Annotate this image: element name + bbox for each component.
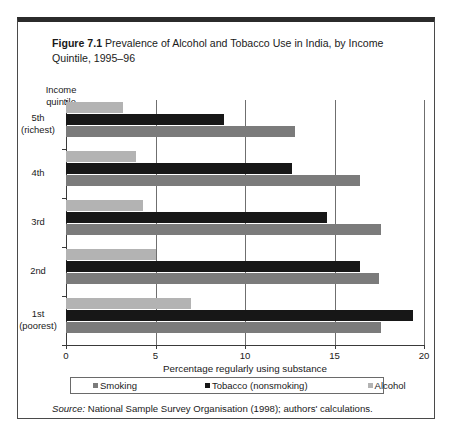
y-axis-category-line: 2nd <box>30 265 46 276</box>
bar-smoking <box>66 126 295 137</box>
y-axis-category-label: 4th <box>14 167 62 178</box>
x-axis-tick <box>424 345 425 349</box>
bar-tobacco <box>66 163 292 174</box>
figure-source: Source: National Sample Survey Organisat… <box>52 403 373 414</box>
y-axis-category-label: 5th(richest) <box>14 112 62 134</box>
y-axis-category-line: 4th <box>31 167 44 178</box>
bar-group: 2nd <box>66 247 424 296</box>
bar-group: 4th <box>66 149 424 198</box>
bar-alcohol <box>66 249 156 260</box>
bar-tobacco <box>66 114 224 125</box>
legend-item: Alcohol <box>368 380 406 391</box>
bar-smoking <box>66 273 379 284</box>
source-label: Source: <box>52 403 85 414</box>
x-axis-tick-label: 10 <box>240 350 251 361</box>
legend-label: Tobacco (nonsmoking) <box>212 380 308 391</box>
legend-label: Alcohol <box>375 380 406 391</box>
y-axis-category-line: 5th <box>31 112 44 123</box>
chart-legend: SmokingTobacco (nonsmoking)Alcohol <box>70 377 384 394</box>
bar-group: 3rd <box>66 198 424 247</box>
plot-area: 5th(richest)4th3rd2nd1st(poorest) <box>66 100 424 345</box>
bar-alcohol <box>66 102 123 113</box>
bar-alcohol <box>66 298 191 309</box>
legend-swatch-tobacco <box>205 383 210 388</box>
x-axis-tick <box>66 345 67 349</box>
y-axis-category-line: 3rd <box>31 216 45 227</box>
y-axis-title-line1: Income <box>46 84 77 95</box>
y-axis-category-line: (poorest) <box>19 320 57 331</box>
legend-item: Smoking <box>93 380 137 391</box>
y-axis-category-label: 1st(poorest) <box>14 308 62 330</box>
x-axis-tick <box>335 345 336 349</box>
bar-alcohol <box>66 151 136 162</box>
bar-alcohol <box>66 200 143 211</box>
bar-smoking <box>66 224 381 235</box>
y-axis-category-line: 1st <box>32 308 45 319</box>
x-axis-tick <box>245 345 246 349</box>
gridline-20 <box>424 100 425 345</box>
bar-tobacco <box>66 261 360 272</box>
x-axis-tick-label: 15 <box>329 350 340 361</box>
bar-smoking <box>66 322 381 333</box>
y-axis-category-line: (richest) <box>21 124 55 135</box>
x-axis-tick-label: 0 <box>63 350 68 361</box>
legend-swatch-alcohol <box>368 383 373 388</box>
bar-group: 1st(poorest) <box>66 296 424 345</box>
legend-label: Smoking <box>100 380 137 391</box>
y-axis-category-label: 2nd <box>14 265 62 276</box>
source-text: National Sample Survey Organisation (199… <box>85 403 373 414</box>
bar-group: 5th(richest) <box>66 100 424 149</box>
legend-swatch-smoking <box>93 383 98 388</box>
chart-plot: Income quintile 5th(richest)4th3rd2nd1st… <box>18 22 436 424</box>
y-axis-category-label: 3rd <box>14 216 62 227</box>
x-axis-tick-label: 20 <box>419 350 430 361</box>
figure-frame: Figure 7.1 Prevalence of Alcohol and Tob… <box>17 17 435 419</box>
bar-smoking <box>66 175 360 186</box>
x-axis-tick-label: 5 <box>153 350 158 361</box>
x-axis-title: Percentage regularly using substance <box>66 363 424 374</box>
bar-tobacco <box>66 212 327 223</box>
bar-tobacco <box>66 310 413 321</box>
legend-item: Tobacco (nonsmoking) <box>205 380 308 391</box>
x-axis-tick <box>156 345 157 349</box>
